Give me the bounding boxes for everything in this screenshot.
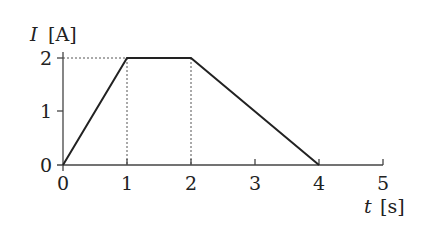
y-axis-symbol: I	[29, 23, 38, 45]
x-tick-label-4: 4	[313, 172, 325, 194]
y-tick-label-1: 1	[40, 100, 52, 122]
x-tick-label-1: 1	[121, 172, 133, 194]
x-axis-symbol: t	[364, 195, 372, 217]
y-tick-label-0: 0	[40, 154, 52, 176]
x-tick-label-2: 2	[185, 172, 197, 194]
x-axis-unit: [s]	[380, 195, 405, 217]
guide-lines	[63, 58, 191, 165]
x-tick-label-0: 0	[57, 172, 69, 194]
current-time-chart: 2 1 0 0 1 2 3 4 5 I [A] t [s]	[0, 0, 429, 227]
x-tick-label-3: 3	[249, 172, 261, 194]
y-axis-unit: [A]	[48, 23, 77, 45]
axes	[57, 52, 383, 171]
x-tick-label-5: 5	[377, 172, 389, 194]
y-tick-label-2: 2	[40, 47, 52, 69]
